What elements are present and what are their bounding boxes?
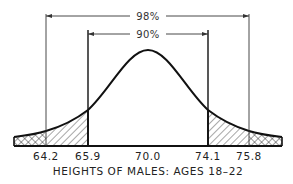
range-90-arrow: 90% bbox=[88, 29, 208, 40]
range-98-arrow: 98% bbox=[46, 11, 249, 22]
tick-70-0: 70.0 bbox=[135, 150, 161, 162]
left-tail-crosshatch bbox=[14, 40, 46, 150]
tick-74-1: 74.1 bbox=[195, 150, 221, 162]
normal-distribution-diagram: 98% 90% 64.2 65.9 70.0 74.1 75.8 HEIGHTS… bbox=[0, 0, 293, 184]
tick-65-9: 65.9 bbox=[75, 150, 101, 162]
range-98-label: 98% bbox=[136, 11, 160, 22]
tick-labels: 64.2 65.9 70.0 74.1 75.8 bbox=[33, 150, 262, 162]
shaded-regions bbox=[14, 40, 282, 150]
tick-64-2: 64.2 bbox=[33, 150, 59, 162]
right-diagonal-hatch bbox=[208, 40, 249, 150]
tick-75-8: 75.8 bbox=[236, 150, 262, 162]
right-tail-crosshatch bbox=[249, 40, 282, 150]
bell-curve bbox=[14, 50, 282, 137]
diagram-title: HEIGHTS OF MALES: AGES 18–22 bbox=[53, 165, 244, 177]
range-90-label: 90% bbox=[136, 29, 160, 40]
left-diagonal-hatch bbox=[46, 40, 88, 150]
